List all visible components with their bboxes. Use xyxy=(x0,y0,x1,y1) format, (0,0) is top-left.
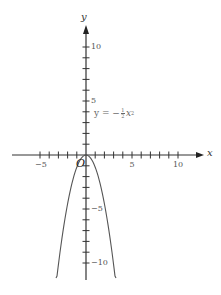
x-axis xyxy=(12,152,204,159)
x-axis-label: x xyxy=(207,148,213,158)
y-tick-label: 5 xyxy=(91,97,96,105)
fraction-denominator: 2 xyxy=(121,114,124,119)
equation-exponent: 2 xyxy=(131,110,134,116)
x-tick-label: 10 xyxy=(173,161,183,169)
x-tick-label: −5 xyxy=(35,161,47,169)
x-axis-arrow-icon xyxy=(196,152,204,158)
equation-annotation: y = − 1 2 x 2 xyxy=(94,108,134,119)
parabola-chart xyxy=(0,0,221,295)
equation-prefix: y = − xyxy=(94,108,120,118)
x-tick-label: 5 xyxy=(130,161,135,169)
y-tick-label: 10 xyxy=(91,43,101,51)
y-axis-label: y xyxy=(81,12,87,22)
y-axis xyxy=(83,25,90,280)
equation-fraction: 1 2 xyxy=(121,108,125,119)
y-axis-arrow-icon xyxy=(83,25,89,34)
y-tick-label: −10 xyxy=(91,259,108,267)
origin-label: O xyxy=(76,157,85,170)
y-tick-label: −5 xyxy=(91,205,103,213)
